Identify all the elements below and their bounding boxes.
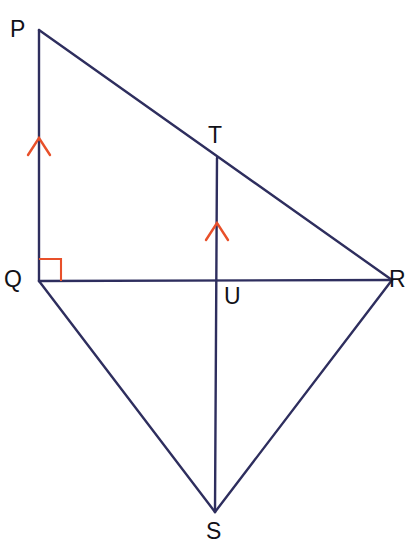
vertex-label-t: T <box>208 124 222 147</box>
segment-ts <box>215 158 217 512</box>
vertex-label-u: U <box>224 285 241 308</box>
vertex-label-s: S <box>206 520 221 543</box>
segment-qs <box>39 281 215 512</box>
right-angle-mark-q <box>40 259 61 280</box>
vertex-label-q: Q <box>4 268 22 291</box>
vertex-label-p: P <box>10 18 25 41</box>
segment-rs <box>215 280 392 512</box>
vertex-label-r: R <box>389 268 406 291</box>
